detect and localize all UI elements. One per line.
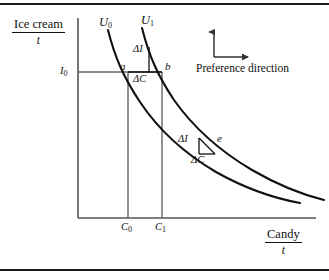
curve-label-u0: U0 [99, 16, 112, 30]
point-label-e: e [217, 133, 222, 144]
x-tick-label-c1: C1 [155, 222, 166, 234]
x-tick-label-c0: C0 [121, 222, 132, 234]
delta-i-label-2: ΔI [178, 134, 188, 145]
y-axis-label-numerator: Ice cream [12, 18, 65, 33]
y-tick-label-i0: I0 [60, 66, 68, 78]
y-axis-label: Ice cream t [12, 18, 65, 46]
preference-direction-indicator [214, 32, 248, 57]
preference-direction-label: Preference direction [196, 63, 289, 75]
slope-triangle-e [199, 138, 215, 154]
indifference-curve-figure: Ice cream t Candy t U0 U1 I0 C0 C1 a b e… [0, 0, 329, 280]
delta-i-label-1: ΔI [133, 44, 143, 55]
point-label-b: b [165, 61, 171, 72]
reference-lines [78, 72, 162, 218]
delta-c-label-2: ΔC [191, 155, 204, 166]
point-label-a: a [120, 61, 126, 72]
y-axis-label-denominator: t [12, 33, 65, 46]
curve-u0 [108, 30, 300, 203]
curve-u1 [142, 28, 324, 200]
x-axis-label-denominator: t [265, 243, 302, 256]
x-axis-label-numerator: Candy [265, 228, 302, 243]
delta-c-label-1: ΔC [133, 74, 146, 85]
x-axis-label: Candy t [265, 228, 302, 256]
curve-label-u1: U1 [141, 14, 154, 28]
